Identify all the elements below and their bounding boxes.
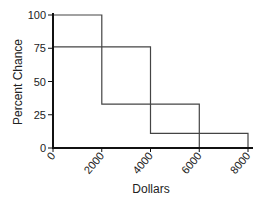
x-tick-label: 8000 [228, 150, 253, 176]
x-axis-label: Dollars [132, 182, 169, 196]
y-tick-label: 50 [34, 76, 46, 88]
y-tick-label: 75 [34, 42, 46, 54]
x-tick-label: 0 [44, 150, 57, 162]
x-tick-label: 4000 [130, 150, 155, 176]
chart: 0255075100 02000400060008000 Percent Cha… [0, 0, 267, 203]
series-line-1 [53, 15, 199, 148]
y-axis-label: Percent Chance [11, 39, 25, 125]
y-tick-label: 100 [28, 9, 46, 21]
y-axis: 0255075100 [28, 9, 53, 154]
series-line-2 [53, 47, 248, 148]
y-tick-label: 25 [34, 109, 46, 121]
plot-area [53, 15, 248, 148]
x-tick-label: 2000 [81, 150, 106, 176]
x-axis: 02000400060008000 [44, 148, 253, 176]
x-tick-label: 6000 [179, 150, 204, 176]
